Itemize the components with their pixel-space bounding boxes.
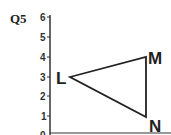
point-label-l: L [56,69,66,88]
coordinate-grid: 6 5 4 3 2 1 0 L M N [0,0,171,135]
svg-text:6: 6 [40,12,46,23]
triangle-lmn [70,57,146,117]
svg-text:1: 1 [41,111,47,122]
svg-text:2: 2 [40,91,46,102]
svg-text:4: 4 [40,52,46,63]
svg-text:3: 3 [40,72,46,83]
diagram: Q5 6 5 4 3 2 1 0 L M N [0,0,171,135]
point-label-n: N [149,117,161,135]
svg-text:5: 5 [40,32,46,43]
svg-text:0: 0 [40,130,46,135]
y-ticks: 6 5 4 3 2 1 0 [40,12,50,135]
point-label-m: M [148,49,162,68]
